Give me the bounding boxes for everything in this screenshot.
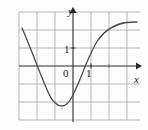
x-tick-label-one: 1 (86, 68, 92, 79)
y-axis-label: y (68, 6, 73, 17)
graph-canvas (0, 0, 148, 130)
origin-label: 0 (63, 68, 69, 79)
x-axis-label: x (134, 74, 139, 85)
y-axis (69, 7, 76, 122)
function-curve (22, 22, 137, 106)
graph-figure: y x 1 0 1 (0, 0, 148, 130)
y-tick-label-one: 1 (64, 44, 70, 55)
x-axis-arrowhead (136, 62, 142, 69)
